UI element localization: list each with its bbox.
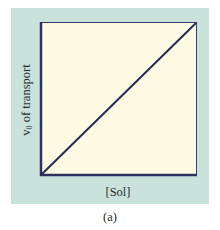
y-axis-label-rest: of transport: [19, 64, 33, 125]
plot-area: [40, 22, 197, 176]
y-axis-label-subscript: 0: [25, 125, 34, 129]
figure-caption: (a): [103, 210, 117, 225]
x-axis-label: [Sol]: [106, 185, 131, 200]
y-axis-label: v0 of transport: [19, 64, 34, 135]
y-axis-label-base: v: [19, 129, 33, 135]
line-chart: [40, 22, 197, 176]
